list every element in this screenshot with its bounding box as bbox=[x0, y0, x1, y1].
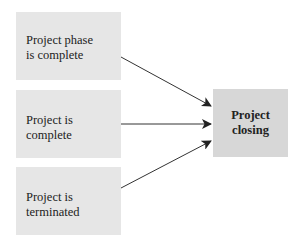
node-project-complete: Project is complete bbox=[16, 90, 121, 158]
node-project-closing: Project closing bbox=[213, 89, 288, 157]
node-label-line: Project bbox=[213, 108, 288, 123]
node-project-phase-complete: Project phase is complete bbox=[16, 12, 121, 80]
node-label-line: Project is bbox=[26, 190, 121, 205]
arrow-phase-to-closing bbox=[121, 57, 211, 106]
arrow-terminated-to-closing bbox=[121, 141, 211, 188]
node-project-terminated: Project is terminated bbox=[16, 167, 121, 235]
node-label-line: closing bbox=[213, 123, 288, 138]
node-label-line: Project is bbox=[26, 113, 121, 128]
node-label-line: terminated bbox=[26, 205, 121, 220]
node-label-line: complete bbox=[26, 128, 121, 143]
node-label-line: Project phase bbox=[26, 33, 121, 48]
node-label-line: is complete bbox=[26, 48, 121, 63]
